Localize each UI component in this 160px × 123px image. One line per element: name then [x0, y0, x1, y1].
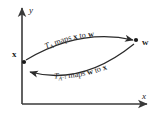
inverse-arc-label-maps: maps — [66, 68, 88, 80]
w-point-dot — [134, 38, 138, 42]
inverse-arc-label: TA−1 maps w to x — [54, 62, 109, 81]
w-point-label: w — [142, 37, 149, 47]
inverse-arc-label-sup: −1 — [62, 75, 67, 80]
vector-transform-figure: y x x w TA maps x to w TA−1 maps w to x — [0, 0, 160, 123]
x-point-dot — [22, 60, 26, 64]
x-axis-label: x — [141, 91, 146, 101]
forward-arc-label-to-word: to — [77, 30, 89, 40]
figure-canvas: y x x w TA maps x to w TA−1 maps w to x — [0, 0, 160, 123]
x-point-label: x — [12, 49, 17, 59]
forward-arc-label: TA maps x to w — [43, 30, 94, 51]
y-axis-label: y — [28, 5, 33, 15]
forward-arc-label-to: w — [88, 30, 95, 39]
forward-arc-label-maps: maps — [51, 33, 74, 48]
